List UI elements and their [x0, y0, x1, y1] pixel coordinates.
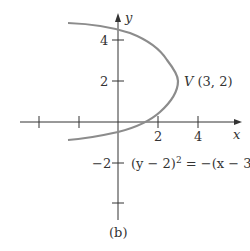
- tick-label-y4: 4: [100, 33, 108, 48]
- equation-label: (y − 2)2 = −(x − 3): [131, 155, 250, 171]
- equation-lhs: (y − 2): [131, 156, 176, 171]
- vertex-V: V: [184, 74, 195, 89]
- parabola-figure: y x 2 4 4 2 −2 V (3, 2) (y − 2)2 = −(x −…: [0, 0, 250, 251]
- vertex-label: V (3, 2): [184, 74, 232, 89]
- y-axis-arrow-icon: [115, 13, 121, 22]
- figure-caption: (b): [109, 225, 127, 240]
- tick-label-y2: 2: [100, 74, 108, 89]
- x-axis-arrow-icon: [234, 119, 242, 125]
- equation-rhs: = −(x − 3): [182, 156, 250, 171]
- y-axis-label: y: [124, 10, 133, 25]
- tick-label-yn2: −2: [92, 156, 111, 171]
- vertex-coords: (3, 2): [198, 74, 233, 89]
- tick-label-x2: 2: [154, 129, 162, 144]
- tick-label-x4: 4: [194, 129, 202, 144]
- x-axis-label: x: [233, 127, 241, 142]
